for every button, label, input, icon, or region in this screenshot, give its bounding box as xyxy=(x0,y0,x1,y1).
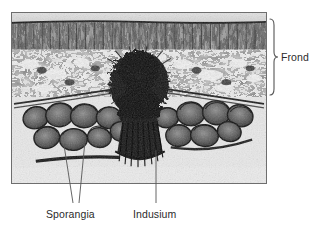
fern-sorus-micrograph xyxy=(11,12,267,184)
frond-brace xyxy=(270,19,278,95)
fern-sorus-figure: Frond Sporangia Indusium xyxy=(0,0,321,232)
micrograph-image xyxy=(12,13,266,183)
label-frond: Frond xyxy=(281,51,309,63)
label-sporangia: Sporangia xyxy=(46,208,95,220)
label-indusium: Indusium xyxy=(133,208,176,220)
